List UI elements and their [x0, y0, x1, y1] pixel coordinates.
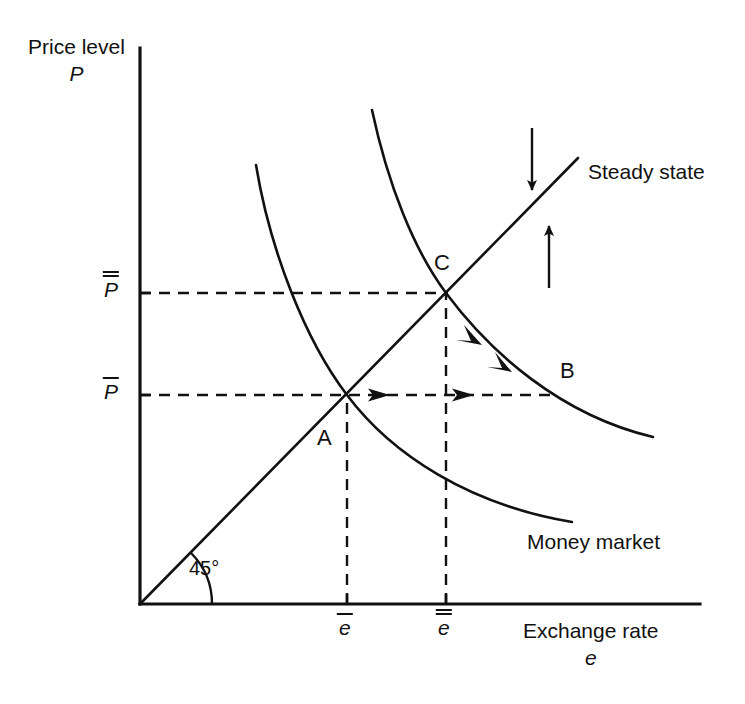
overbar-lower	[436, 609, 452, 611]
x-tick-label-e-bar-text: e	[339, 616, 351, 639]
x-axis-title: Exchange rate e	[523, 620, 658, 669]
x-axis-title-line1: Exchange rate	[523, 620, 658, 642]
exchange-rate-overshooting-diagram: Price level P Exchange rate e P P e e	[0, 0, 745, 704]
overbar-upper	[436, 613, 452, 615]
adjustment-arrowheads	[456, 325, 512, 372]
x-tick-label-e-double-bar: e	[438, 617, 450, 639]
money-market-curve-initial	[256, 165, 572, 522]
money-market-label: Money market	[527, 531, 660, 553]
y-axis-title-line1: Price level	[28, 36, 125, 58]
axis-group	[140, 48, 700, 604]
x-axis-title-symbol: e	[523, 647, 658, 669]
y-tick-label-p-double-bar-text: P	[104, 278, 118, 301]
diagram-canvas	[0, 0, 745, 704]
x-tick-label-e-double-bar-text: e	[438, 616, 450, 639]
dynamics-arrows	[532, 128, 549, 288]
y-axis-title: Price level P	[28, 36, 125, 85]
x-tick-label-e-bar: e	[339, 617, 351, 639]
point-label-c: C	[434, 251, 450, 274]
horizontal-path-arrowheads	[368, 389, 474, 402]
overbar-lower	[103, 271, 119, 273]
overbar	[103, 377, 119, 379]
y-axis-title-symbol: P	[28, 63, 125, 85]
steady-state-label: Steady state	[588, 161, 705, 183]
point-label-a: A	[317, 426, 332, 449]
point-label-b: B	[560, 359, 575, 382]
y-tick-label-p-bar-text: P	[104, 380, 118, 403]
adjustment-arrowhead-inner	[456, 325, 482, 345]
steady-state-line	[140, 158, 578, 604]
horizontal-arrowhead-mid	[452, 389, 474, 402]
angle-label-45: 45°	[189, 558, 219, 579]
y-tick-label-p-bar: P	[104, 381, 118, 403]
overbar-upper	[103, 275, 119, 277]
overbar	[337, 613, 353, 615]
y-tick-label-p-double-bar: P	[104, 279, 118, 301]
